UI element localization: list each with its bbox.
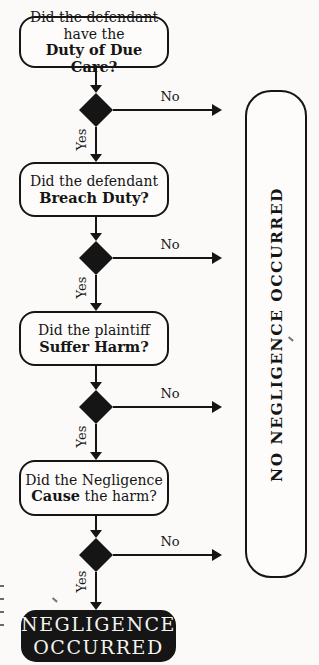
flowchart-canvas: Did the defendant have the Duty of Due C… <box>0 0 319 665</box>
question-line: Did the defendant <box>30 9 158 26</box>
arrowhead-down-icon <box>90 452 102 460</box>
connector-line <box>95 572 97 603</box>
yes-label: Yes <box>74 565 89 599</box>
arrowhead-down-icon <box>90 303 102 311</box>
question-box-duty-of-due-care: Did the defendant have the Duty of Due C… <box>19 16 169 68</box>
question-line: Did the plaintiff <box>38 322 150 339</box>
scan-artifact <box>52 597 58 602</box>
page-edge-artifact <box>0 611 4 613</box>
connector-line <box>95 424 97 453</box>
page-edge-artifact <box>0 585 4 587</box>
connector-line <box>95 516 97 530</box>
yes-label: Yes <box>74 123 89 157</box>
no-label: No <box>148 89 192 104</box>
connector-line <box>95 127 97 155</box>
arrowhead-right-icon <box>212 401 222 413</box>
terminal-box-negligence-occurred: NEGLIGENCE OCCURRED <box>21 610 176 662</box>
arrowhead-down-icon <box>90 602 102 610</box>
connector-line <box>113 109 212 111</box>
arrowhead-down-icon <box>90 233 102 241</box>
question-line: have the <box>64 26 125 43</box>
page-edge-artifact <box>0 598 4 600</box>
negligence-label-line2: OCCURRED <box>33 636 163 659</box>
connector-line <box>95 366 97 382</box>
question-box-cause-harm: Did the Negligence Cause the harm? <box>19 460 169 516</box>
question-word-bold: Cause <box>31 487 80 504</box>
arrowhead-down-icon <box>90 530 102 538</box>
no-negligence-label: NO NEGLIGENCE OCCURRED <box>267 187 286 482</box>
no-label: No <box>148 237 192 252</box>
arrowhead-right-icon <box>212 104 222 116</box>
yes-label: Yes <box>74 271 89 305</box>
connector-line <box>113 406 212 408</box>
connector-line <box>113 257 212 259</box>
page-edge-artifact <box>0 624 4 626</box>
question-line-bold: Suffer Harm? <box>39 339 148 356</box>
terminal-box-no-negligence: NO NEGLIGENCE OCCURRED <box>245 90 307 578</box>
question-line: Did the Negligence <box>25 472 162 489</box>
question-word-rest: the harm? <box>80 488 157 504</box>
connector-line <box>95 68 97 86</box>
arrowhead-down-icon <box>90 154 102 162</box>
arrowhead-down-icon <box>90 382 102 390</box>
negligence-label-line1: NEGLIGENCE <box>21 613 176 636</box>
question-line: Did the defendant <box>30 173 158 190</box>
connector-line <box>113 554 212 556</box>
no-label: No <box>148 534 192 549</box>
yes-label: Yes <box>74 420 89 454</box>
arrowhead-right-icon <box>212 549 222 561</box>
question-box-breach-duty: Did the defendant Breach Duty? <box>19 162 169 217</box>
arrowhead-right-icon <box>212 252 222 264</box>
question-line-bold: Breach Duty? <box>39 190 149 207</box>
question-box-suffer-harm: Did the plaintiff Suffer Harm? <box>19 311 169 366</box>
connector-line <box>95 275 97 304</box>
question-line: Cause the harm? <box>31 488 157 505</box>
arrowhead-down-icon <box>90 85 102 93</box>
no-label: No <box>148 386 192 401</box>
connector-line <box>95 217 97 233</box>
